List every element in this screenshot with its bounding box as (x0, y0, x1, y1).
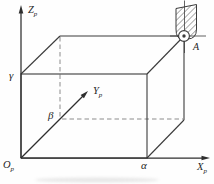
origin-label: Op (3, 159, 15, 173)
tool-tip-center-dot-icon (182, 34, 185, 37)
top-right-depth-edge (147, 36, 184, 74)
y-axis-line (21, 95, 84, 158)
label-point-a: A (192, 41, 200, 52)
cropped-caption-smudge (35, 178, 159, 183)
label-alpha: α (141, 159, 147, 171)
z-axis-label: Zp (28, 4, 38, 18)
box-front-face (21, 74, 147, 158)
x-axis-label: Xp (196, 161, 207, 175)
box-hidden-edges (60, 37, 183, 119)
diagram-canvas: Zp Yp Xp Op γ β α A (0, 0, 214, 184)
label-gamma: γ (9, 69, 14, 81)
x-axis-arrow-icon (202, 156, 211, 161)
box-solid-edges (21, 36, 184, 158)
y-axis-label: Yp (93, 85, 103, 99)
oblique-box-diagram: Zp Yp Xp Op γ β α A (0, 0, 214, 184)
label-beta: β (47, 109, 54, 121)
bottom-right-depth-edge (147, 120, 184, 158)
top-left-depth-edge (21, 36, 60, 74)
z-axis-arrow-icon (19, 5, 24, 14)
